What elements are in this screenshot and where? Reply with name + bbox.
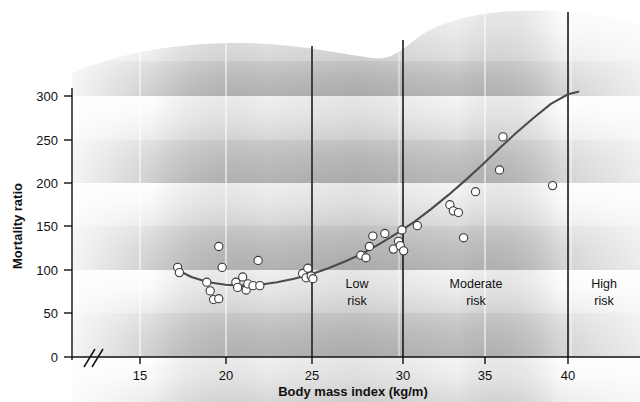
band-sheen xyxy=(72,0,640,402)
scatter-point xyxy=(309,275,317,283)
y-tick-label-0: 0 xyxy=(51,350,58,365)
moderate-risk-label-line1: Moderate xyxy=(450,277,503,291)
scatter-point xyxy=(471,188,479,196)
y-axis-title: Mortality ratio xyxy=(10,183,25,269)
chart-background-bands xyxy=(72,0,640,402)
y-tick-label-300: 300 xyxy=(36,89,58,104)
scatter-point xyxy=(239,273,247,281)
scatter-point xyxy=(365,242,373,250)
y-tick-label-250: 250 xyxy=(36,133,58,148)
scatter-point xyxy=(304,264,312,272)
scatter-point xyxy=(233,283,241,291)
high-risk-label-line2: risk xyxy=(594,294,614,308)
scatter-point xyxy=(400,247,408,255)
low-risk-label-line2: risk xyxy=(347,294,367,308)
y-tick-label-150: 150 xyxy=(36,219,58,234)
high-risk-label-line1: High xyxy=(591,277,617,291)
scatter-point xyxy=(398,226,406,234)
chart-container: 300 250 200 150 100 50 0 Mortality ratio… xyxy=(0,0,640,402)
scatter-point xyxy=(256,282,264,290)
scatter-point xyxy=(459,234,467,242)
scatter-point xyxy=(413,222,421,230)
y-axis: 300 250 200 150 100 50 0 Mortality ratio xyxy=(10,88,72,365)
scatter-point xyxy=(499,133,507,141)
scatter-point xyxy=(454,208,462,216)
x-tick-label-30: 30 xyxy=(396,368,410,383)
scatter-point xyxy=(369,232,377,240)
scatter-point xyxy=(203,278,211,286)
scatter-point xyxy=(548,182,556,190)
x-tick-label-35: 35 xyxy=(478,368,492,383)
x-axis-title: Body mass index (kg/m) xyxy=(278,384,428,399)
scatter-point xyxy=(206,287,214,295)
moderate-risk-label-line2: risk xyxy=(466,294,486,308)
scatter-point xyxy=(215,242,223,250)
scatter-point xyxy=(218,263,226,271)
scatter-point xyxy=(495,166,503,174)
x-tick-label-15: 15 xyxy=(133,368,147,383)
scatter-point xyxy=(175,269,183,277)
scatter-point xyxy=(215,295,223,303)
x-tick-label-20: 20 xyxy=(219,368,233,383)
scatter-point xyxy=(254,256,262,264)
y-tick-label-100: 100 xyxy=(36,263,58,278)
low-risk-label-line1: Low xyxy=(346,277,370,291)
scatter-point xyxy=(362,254,370,262)
mortality-bmi-scatter-chart: 300 250 200 150 100 50 0 Mortality ratio… xyxy=(0,0,640,402)
scatter-point xyxy=(381,229,389,237)
y-tick-label-200: 200 xyxy=(36,176,58,191)
y-tick-label-50: 50 xyxy=(44,306,58,321)
x-tick-label-25: 25 xyxy=(305,368,319,383)
x-tick-label-40: 40 xyxy=(561,368,575,383)
